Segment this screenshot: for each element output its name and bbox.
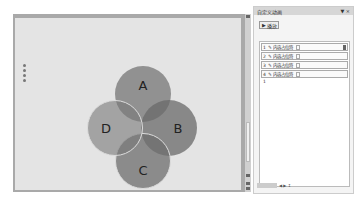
item-label: 内容占位符 [273, 44, 295, 50]
circle-label: A [139, 78, 148, 93]
dropdown-icon[interactable] [343, 45, 346, 50]
list-item[interactable]: 4 ✎ 内容占位符 [261, 70, 348, 78]
handle-icon[interactable] [23, 69, 26, 72]
pen-icon: ✎ [268, 72, 272, 77]
item-label: 内容占位符 [273, 71, 295, 77]
pane-close-icon[interactable]: ▼ × [340, 8, 350, 14]
timeline-bar [296, 54, 300, 59]
timeline-bar [296, 45, 300, 50]
pane-title-bar: 自定义动画 ▼ × [254, 7, 353, 15]
item-number: 4 [263, 72, 267, 77]
circle-label: C [138, 163, 147, 178]
vertical-scrollbar[interactable] [245, 14, 251, 192]
circle-label: B [174, 121, 183, 136]
item-label: 内容占位符 [273, 53, 295, 59]
pen-icon: ✎ [268, 54, 272, 59]
timeline-bar [296, 72, 300, 77]
play-label: 播放 [267, 22, 277, 29]
circle-label: D [101, 121, 111, 136]
list-item[interactable]: 2 ✎ 内容占位符 [261, 52, 348, 60]
pane-footer: ◀ ▶ ↕ [257, 182, 352, 189]
item-number: 1 [263, 45, 267, 50]
list-item[interactable]: 3 ✎ 内容占位符 [261, 61, 348, 69]
timeline-bar [296, 63, 300, 68]
handle-icon[interactable] [23, 74, 26, 77]
pane-title: 自定义动画 [257, 8, 282, 15]
item-number: 2 [263, 54, 267, 59]
item-number: 3 [263, 63, 267, 68]
next-slide-icon[interactable] [246, 187, 250, 190]
list-extra: 1 [263, 79, 349, 84]
list-item[interactable]: 1 ✎ 内容占位符 [261, 43, 348, 51]
reorder-controls[interactable]: ◀ ▶ ↕ [279, 183, 291, 188]
slide-canvas[interactable]: A B C D [15, 18, 241, 190]
slide-editor: A B C D [13, 14, 245, 192]
handle-icon[interactable] [23, 64, 26, 67]
custom-animation-pane: 自定义动画 ▼ × ▶ 播放 1 ✎ 内容占位符 2 ✎ 内容占位符 3 ✎ 内… [253, 6, 354, 194]
pen-icon: ✎ [268, 63, 272, 68]
scroll-down-icon[interactable] [246, 174, 250, 177]
scroll-thumb[interactable] [246, 122, 250, 162]
animation-list: 1 ✎ 内容占位符 2 ✎ 内容占位符 3 ✎ 内容占位符 4 ✎ 内容占位符 … [259, 41, 350, 187]
pen-icon: ✎ [268, 45, 272, 50]
play-icon: ▶ [262, 22, 266, 28]
selection-handles [23, 64, 27, 84]
item-label: 内容占位符 [273, 62, 295, 68]
prev-slide-icon[interactable] [246, 182, 250, 185]
reorder-field [257, 183, 277, 188]
handle-icon[interactable] [23, 79, 26, 82]
scroll-up-icon[interactable] [246, 15, 250, 18]
play-button[interactable]: ▶ 播放 [259, 21, 279, 29]
venn-circle-d[interactable]: D [87, 100, 143, 156]
